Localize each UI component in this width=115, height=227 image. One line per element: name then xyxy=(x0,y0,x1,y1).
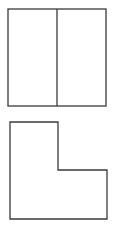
diagram-canvas xyxy=(0,0,115,227)
divided-square xyxy=(8,9,106,106)
l-shape-outline xyxy=(10,122,107,219)
